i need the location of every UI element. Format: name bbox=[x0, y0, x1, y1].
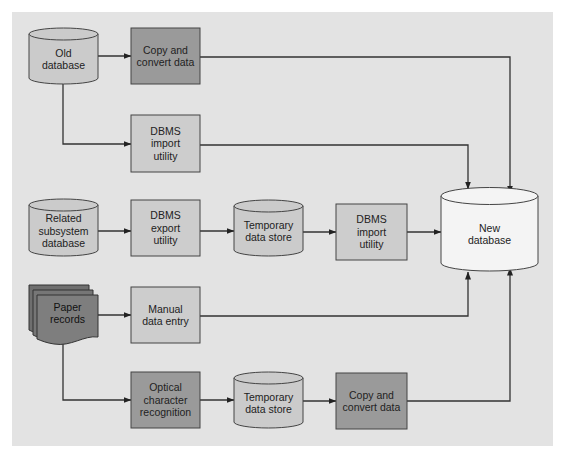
cylinders bbox=[29, 28, 538, 428]
copy-convert-2-box bbox=[336, 373, 407, 429]
old-database-cylinder bbox=[29, 28, 98, 84]
edge-copy-to-newdb bbox=[200, 57, 510, 193]
edge-import-to-newdb bbox=[200, 145, 468, 189]
temp-store-1-cylinder bbox=[234, 200, 303, 256]
copy-convert-1-box bbox=[131, 28, 200, 84]
edge-paper-to-ocr bbox=[63, 340, 131, 400]
edge-old-to-import bbox=[63, 84, 131, 144]
new-database-cylinder bbox=[441, 188, 538, 272]
dbms-import-1-box bbox=[131, 115, 200, 172]
related-database-cylinder bbox=[29, 199, 98, 256]
paper-records-stack bbox=[29, 285, 98, 344]
dbms-import-2-box bbox=[336, 204, 407, 260]
edge-manual-to-newdb bbox=[200, 272, 468, 316]
manual-entry-box bbox=[131, 287, 200, 343]
edge-copy2-to-newdb bbox=[407, 268, 510, 401]
dbms-export-box bbox=[131, 200, 200, 256]
data-conversion-diagram bbox=[0, 0, 563, 452]
ocr-box bbox=[131, 372, 200, 428]
temp-store-2-cylinder bbox=[234, 372, 303, 428]
